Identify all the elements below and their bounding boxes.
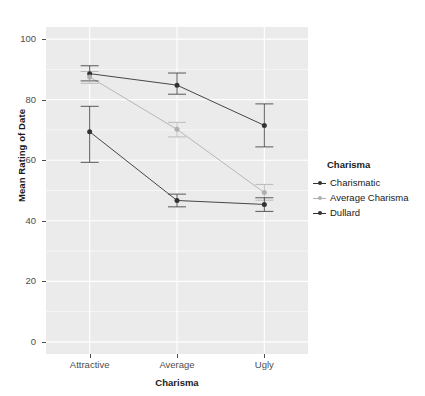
legend-key-icon [312, 206, 327, 221]
y-axis-title: Mean Rating of Date [16, 91, 27, 221]
legend-items: CharismaticAverage CharismaDullard [312, 176, 424, 221]
legend-item-label: Average Charisma [330, 193, 409, 203]
y-tick-mark [42, 100, 46, 101]
legend-item[interactable]: Average Charisma [312, 191, 424, 206]
x-tick-label: Ugly [224, 360, 304, 370]
y-tick-label: 0 [8, 337, 36, 347]
legend-key-icon [312, 176, 327, 191]
chart-root: 020406080100 Mean Rating of Date Attract… [0, 0, 425, 396]
x-tick-label: Attractive [50, 360, 130, 370]
plot-svg [46, 27, 308, 354]
y-tick-label: 100 [8, 34, 36, 44]
legend-key-icon [312, 191, 327, 206]
legend-title: Charisma [327, 160, 424, 170]
x-tick-mark [90, 354, 91, 358]
legend-item[interactable]: Charismatic [312, 176, 424, 191]
x-axis-title: Charisma [46, 377, 308, 388]
y-tick-label: 20 [8, 277, 36, 287]
y-tick-mark [42, 281, 46, 282]
legend-item-label: Charismatic [330, 178, 380, 188]
y-tick-mark [42, 342, 46, 343]
y-tick-mark [42, 39, 46, 40]
legend-item[interactable]: Dullard [312, 206, 424, 221]
y-tick-mark [42, 221, 46, 222]
x-tick-label: Average [137, 360, 217, 370]
legend-item-label: Dullard [330, 208, 360, 218]
x-tick-mark [177, 354, 178, 358]
legend: Charisma CharismaticAverage CharismaDull… [312, 160, 424, 221]
plot-panel [46, 27, 308, 354]
x-tick-mark [264, 354, 265, 358]
y-tick-mark [42, 160, 46, 161]
